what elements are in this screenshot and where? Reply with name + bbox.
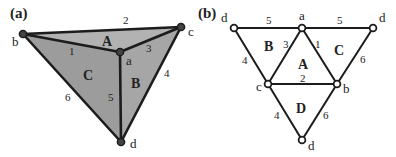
vertex-b-dot-b [334, 81, 341, 88]
vertex-c-dot [177, 23, 184, 30]
edge-dleft-c-label: 4 [242, 54, 248, 66]
vertex-d-right-dot [370, 25, 377, 32]
face-C-label-b: C [334, 43, 344, 58]
vertex-c-dot-b [265, 81, 272, 88]
vertex-c-label-b: c [256, 79, 262, 94]
edge-a-c [268, 28, 302, 84]
face-B-label-b: B [264, 39, 273, 54]
vertex-d-right-label: d [379, 10, 386, 25]
face-C-label: C [83, 68, 93, 83]
vertex-b-label: b [12, 34, 19, 49]
edge-b-dbottom-label: 6 [323, 109, 329, 121]
vertex-c-label: c [188, 24, 194, 39]
edge-a-c-label: 3 [283, 38, 289, 50]
vertex-a-label: a [126, 53, 132, 68]
edge-dleft-a-label: 5 [266, 14, 272, 26]
vertex-d-left-dot [231, 25, 238, 32]
edge-cd-label: 4 [164, 67, 170, 79]
panel-b-label: (b) [198, 5, 216, 22]
edge-ab-label: 1 [69, 45, 75, 57]
edge-a-dright-label: 5 [337, 14, 343, 26]
vertex-d-bottom-dot [299, 137, 306, 144]
edge-dright-b-label: 6 [360, 53, 366, 65]
edge-dleft-c [234, 28, 268, 84]
edge-b-dbottom [302, 84, 337, 140]
tetrahedron-figure: (a) b c a d 1 2 3 4 5 6 [0, 0, 396, 157]
edge-ac-label: 3 [146, 42, 152, 54]
edge-c-b-label: 2 [300, 72, 306, 84]
panel-a: (a) b c a d 1 2 3 4 5 6 [10, 5, 194, 151]
vertex-d-bottom-label: d [308, 138, 315, 153]
face-A-label-b: A [298, 57, 309, 72]
vertex-d-label: d [130, 136, 137, 151]
edge-a-b-label: 1 [315, 38, 321, 50]
vertex-a-dot-b [299, 25, 306, 32]
vertex-b-label-b: b [343, 81, 350, 96]
panel-b: (b) d a d c b d 5 5 [198, 5, 386, 153]
edge-ad [120, 52, 121, 142]
edge-bd-label: 6 [65, 91, 71, 103]
face-B-label: B [131, 76, 140, 91]
edge-a-b [302, 28, 337, 84]
vertex-a-dot [116, 48, 123, 55]
vertex-d-dot [117, 138, 124, 145]
edge-c-dbottom-label: 4 [274, 109, 280, 121]
face-A-label: A [102, 34, 113, 49]
panel-a-label: (a) [10, 5, 28, 22]
face-D-label-b: D [296, 101, 306, 116]
vertex-a-label-b: a [299, 8, 305, 23]
edge-ad-label: 5 [108, 91, 114, 103]
edge-bc-label: 2 [123, 14, 129, 26]
vertex-b-dot [19, 30, 26, 37]
vertex-d-left-label: d [221, 10, 228, 25]
